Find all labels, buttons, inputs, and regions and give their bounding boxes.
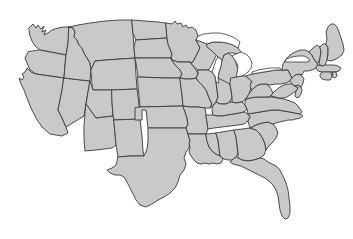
state-ct[interactable] [320,72,332,80]
state-ks[interactable] [138,77,183,107]
us-map-figure [0,0,353,239]
state-nm[interactable] [114,119,144,157]
state-ri[interactable] [333,72,337,78]
state-wy[interactable] [91,58,137,90]
state-nd[interactable] [132,20,167,40]
united-states-map[interactable] [0,0,353,239]
state-ma[interactable] [316,65,341,72]
state-sd[interactable] [134,38,172,58]
